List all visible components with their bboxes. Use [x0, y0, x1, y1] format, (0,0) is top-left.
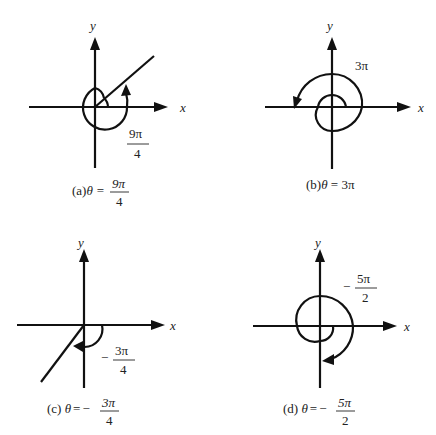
- angle-label-numerator: 5π: [357, 271, 371, 286]
- panel-b: y x 3π (b)θ = 3π: [265, 18, 424, 192]
- x-axis-arrow-icon: [154, 102, 168, 112]
- angle-label: 3π: [355, 58, 369, 73]
- x-axis-label: x: [403, 319, 410, 334]
- y-axis-label: y: [325, 18, 333, 33]
- caption-rest: = 3π: [328, 177, 355, 192]
- terminal-ray: [41, 325, 84, 382]
- caption-theta: θ: [65, 401, 72, 416]
- y-axis-label: y: [76, 235, 84, 250]
- y-axis-arrow-icon: [90, 37, 100, 50]
- y-axis-label: y: [88, 18, 96, 33]
- rotation-spiral: [296, 296, 353, 359]
- y-axis-arrow-icon: [327, 37, 337, 50]
- caption-d: (d) θ=−: [283, 401, 327, 416]
- angle-label-sign: −: [101, 350, 108, 365]
- x-axis-arrow-icon: [397, 102, 411, 112]
- caption-prefix: (a): [72, 183, 86, 198]
- caption-denominator: 4: [116, 194, 123, 209]
- y-axis-arrow-icon: [315, 249, 325, 262]
- caption-equals: =: [73, 401, 80, 416]
- panel-d: y x − 5π 2 (d) θ=− 5π 2: [253, 235, 410, 428]
- caption-equals: =: [97, 183, 104, 198]
- caption-numerator: 3π: [101, 395, 116, 410]
- caption-theta: θ: [86, 183, 93, 198]
- caption-numerator: 5π: [338, 395, 352, 410]
- caption-prefix: (c): [47, 401, 65, 416]
- caption-denominator: 4: [106, 413, 113, 428]
- caption-denominator: 2: [342, 413, 349, 428]
- angle-label-sign: −: [343, 279, 350, 294]
- x-axis-arrow-icon: [151, 320, 165, 330]
- caption-equals: =: [310, 401, 317, 416]
- rotation-arrow-icon: [121, 84, 131, 96]
- x-axis-label: x: [417, 100, 424, 115]
- x-axis-label: x: [179, 100, 186, 115]
- caption-theta: θ: [301, 401, 308, 416]
- caption-prefix: (d): [283, 401, 301, 416]
- angle-label-numerator: 3π: [115, 343, 129, 358]
- rotation-spiral: [83, 88, 127, 130]
- rotation-arrow-icon: [73, 341, 83, 352]
- rotation-arrow-icon: [322, 354, 334, 365]
- panel-c: y x − 3π 4 (c) θ=− 3π 4: [17, 235, 176, 428]
- rotation-spiral: [297, 74, 362, 131]
- angle-label-numerator: 9π: [129, 126, 143, 141]
- caption-sign: −: [82, 401, 89, 416]
- angle-label-denominator: 2: [362, 290, 369, 305]
- angle-diagrams: y x 9π 4 (a)θ= 9π 4 y x 3π (b)θ = 3π: [0, 0, 436, 435]
- panel-a: y x 9π 4 (a)θ= 9π 4: [29, 18, 186, 209]
- y-axis-label: y: [313, 235, 321, 250]
- angle-label-denominator: 4: [120, 362, 127, 377]
- x-axis-label: x: [169, 318, 176, 333]
- caption-numerator: 9π: [112, 176, 126, 191]
- caption-prefix: (b): [306, 177, 321, 192]
- caption-sign: −: [319, 401, 326, 416]
- caption-c: (c) θ=−: [47, 401, 90, 416]
- caption-a: (a)θ=: [72, 183, 104, 198]
- x-axis-arrow-icon: [383, 321, 397, 331]
- angle-label-denominator: 4: [134, 146, 141, 161]
- caption-b: (b)θ = 3π: [306, 177, 355, 192]
- y-axis-arrow-icon: [79, 249, 89, 262]
